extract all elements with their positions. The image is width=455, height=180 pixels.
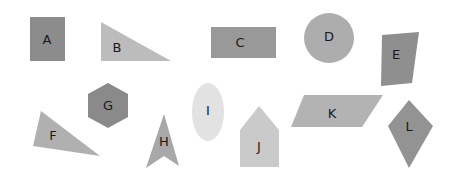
shape-j-pentagon xyxy=(240,106,279,167)
shape-i-label: I xyxy=(206,103,210,118)
shape-canvas: A B C D E F G H I J K L xyxy=(0,0,455,180)
shape-k-label: K xyxy=(328,106,337,121)
shape-f-label: F xyxy=(49,128,56,143)
shape-a-label: A xyxy=(43,32,52,47)
shape-b-triangle xyxy=(101,22,171,61)
shape-d-label: D xyxy=(324,29,334,44)
shape-g-label: G xyxy=(103,98,113,113)
shape-k-parallelogram xyxy=(291,95,383,127)
shapes-svg: A B C D E F G H I J K L xyxy=(0,0,455,180)
shape-b-label: B xyxy=(113,40,122,55)
shape-e-label: E xyxy=(392,47,400,62)
shape-c-label: C xyxy=(235,35,244,50)
shape-h-label: H xyxy=(159,134,169,149)
shape-j-label: J xyxy=(256,139,261,154)
shape-l-label: L xyxy=(405,119,413,134)
shape-l-kite xyxy=(388,100,433,168)
